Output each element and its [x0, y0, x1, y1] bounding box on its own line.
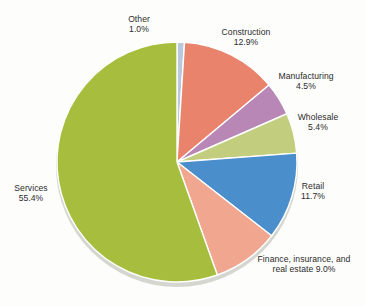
slice-label-wholesale: Wholesale 5.4% — [287, 112, 349, 133]
slice-label-finance-name: Finance, insurance, and — [245, 254, 363, 264]
slice-label-construction-name: Construction — [208, 27, 284, 37]
slice-label-other: Other 1.0% — [107, 14, 171, 35]
pie-slices-group — [57, 42, 297, 282]
slice-label-services: Services 55.4% — [3, 183, 59, 204]
pie-chart: Other 1.0% Construction 12.9% Manufactur… — [0, 0, 365, 306]
slice-label-wholesale-name: Wholesale — [287, 112, 349, 122]
slice-label-manufacturing: Manufacturing 4.5% — [265, 71, 347, 92]
slice-label-retail: Retail 11.7% — [288, 181, 338, 202]
slice-label-manufacturing-value: 4.5% — [265, 81, 347, 91]
slice-label-finance: Finance, insurance, and real estate 9.0% — [245, 254, 363, 275]
slice-label-construction: Construction 12.9% — [208, 27, 284, 48]
slice-label-services-value: 55.4% — [3, 193, 59, 203]
slice-label-other-value: 1.0% — [107, 24, 171, 34]
slice-label-retail-name: Retail — [288, 181, 338, 191]
slice-label-wholesale-value: 5.4% — [287, 122, 349, 132]
slice-label-retail-value: 11.7% — [288, 191, 338, 201]
slice-label-construction-value: 12.9% — [208, 37, 284, 47]
slice-label-finance-value: real estate 9.0% — [245, 264, 363, 274]
slice-label-services-name: Services — [3, 183, 59, 193]
slice-label-manufacturing-name: Manufacturing — [265, 71, 347, 81]
slice-label-other-name: Other — [107, 14, 171, 24]
